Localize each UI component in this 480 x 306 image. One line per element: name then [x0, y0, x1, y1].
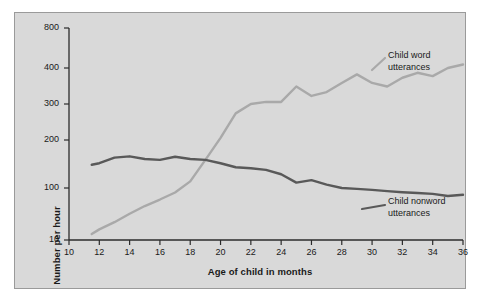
- chart-figure: Number per hour Age of child in months 1…: [0, 0, 480, 306]
- y-axis-tick-label: 800: [27, 22, 59, 32]
- x-axis-tick-label: 10: [57, 247, 81, 257]
- series-label-child-nonword-utterances: Child nonwordutterances: [388, 196, 446, 219]
- x-axis-tick-label: 26: [299, 247, 323, 257]
- y-axis-title-wrapper: Number per hour: [24, 90, 40, 210]
- y-axis-tick-label: 200: [27, 134, 59, 144]
- y-axis-tick-label: 400: [27, 62, 59, 72]
- x-axis-tick-label: 24: [269, 247, 293, 257]
- x-axis-tick-label: 32: [390, 247, 414, 257]
- x-axis-tick-label: 36: [451, 247, 475, 257]
- x-axis-tick-label: 20: [209, 247, 233, 257]
- y-axis-tick-label: 100: [27, 182, 59, 192]
- x-axis-tick-label: 12: [87, 247, 111, 257]
- x-axis-tick-label: 22: [239, 247, 263, 257]
- x-axis-title: Age of child in months: [0, 266, 480, 277]
- series-label-line: utterances: [388, 62, 431, 74]
- series-label-line: utterances: [388, 208, 446, 220]
- x-axis-tick-label: 28: [330, 247, 354, 257]
- y-axis-title: Number per hour: [51, 186, 62, 306]
- y-axis-tick-label: 300: [27, 98, 59, 108]
- y-axis-tick-label: 10: [27, 234, 59, 244]
- x-axis-tick-label: 34: [421, 247, 445, 257]
- series-label-line: Child word: [388, 50, 431, 62]
- x-axis-tick-label: 14: [118, 247, 142, 257]
- series-label-child-word-utterances: Child wordutterances: [388, 50, 431, 73]
- series-label-line: Child nonword: [388, 196, 446, 208]
- x-axis-tick-label: 16: [148, 247, 172, 257]
- x-axis-tick-label: 18: [178, 247, 202, 257]
- x-axis-tick-label: 30: [360, 247, 384, 257]
